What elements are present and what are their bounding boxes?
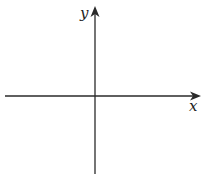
coordinate-axes-diagram: x y [0, 0, 205, 174]
x-axis-label: x [189, 97, 198, 115]
x-axis: x [5, 92, 201, 116]
y-axis-label: y [79, 4, 89, 22]
y-axis: y [79, 4, 100, 174]
